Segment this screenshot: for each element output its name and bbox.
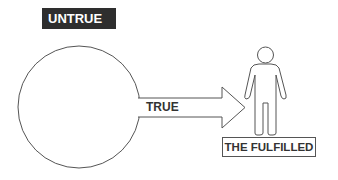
- circle-shape: [18, 46, 140, 168]
- true-label: TRUE: [146, 100, 179, 115]
- person-icon: [245, 47, 287, 135]
- untrue-label: UNTRUE: [42, 8, 116, 29]
- fulfilled-label: THE FULFILLED: [222, 137, 316, 157]
